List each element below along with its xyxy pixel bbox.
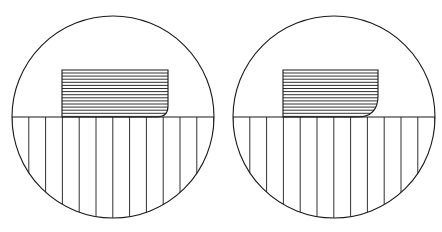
figure-root: Two hatched circular diagrams bbox=[0, 0, 442, 232]
figure-canvas bbox=[0, 0, 442, 232]
upper-horizontal-hatch-group-left bbox=[61, 73, 169, 116]
upper-horizontal-hatch-group-right bbox=[282, 73, 379, 116]
